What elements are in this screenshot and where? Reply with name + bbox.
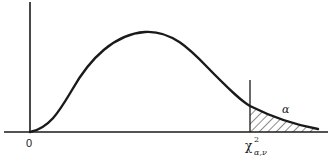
critical-value-subscript: α,ν [254,148,267,157]
chi-square-diagram: 0 χ 2 α,ν α [0,0,328,160]
chi-square-figure: 0 χ 2 α,ν α [0,0,328,160]
density-curve [30,32,318,132]
tail-area-label: α [282,103,290,116]
critical-value-base: χ [245,139,253,153]
origin-label: 0 [26,137,32,149]
critical-value-superscript: 2 [254,135,259,144]
critical-value-label: χ [245,139,253,153]
